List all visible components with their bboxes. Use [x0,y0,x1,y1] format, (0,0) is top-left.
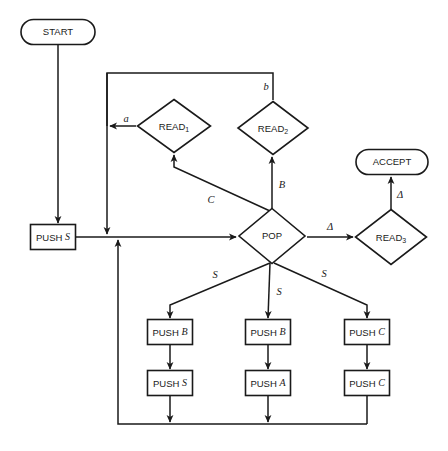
node-label: READ3 [376,231,406,243]
node-push_c_2: PUSH C [345,371,390,396]
edge-label-lbl-C: C [207,194,215,205]
node-label: PUSH S [36,231,70,242]
edge-label-lbl-b: b [263,81,268,92]
edges-layer [58,45,391,424]
node-push_a_2: PUSH A [246,371,291,396]
node-push_s_1: PUSH S [148,371,193,396]
node-label: ACCEPT [373,156,412,167]
node-label: PUSH B [250,326,285,337]
flowchart-svg: STARTACCEPTREAD1READ2READ3POPPUSH SPUSH … [0,0,448,451]
node-label: PUSH B [152,326,187,337]
node-push_b_1: PUSH B [148,320,193,345]
node-label: PUSH A [250,377,286,388]
node-label: READ1 [159,120,189,132]
node-push_s_main: PUSH S [31,225,76,250]
flowchart-canvas: STARTACCEPTREAD1READ2READ3POPPUSH SPUSH … [0,0,448,451]
node-read2: READ2 [238,102,308,155]
node-pop: POP [239,209,305,264]
nodes-layer: STARTACCEPTREAD1READ2READ3POPPUSH SPUSH … [21,20,428,396]
edge-label-lbl-S-left: S [212,269,218,280]
edge-pop-branch-mid [268,263,270,318]
edge-label-lbl-delta2: Δ [396,189,403,200]
node-label: START [43,26,73,37]
node-read1: READ1 [138,100,211,153]
node-push_b_2: PUSH B [246,320,291,345]
node-label: PUSH C [349,326,385,337]
edge-label-lbl-S-mid: S [276,286,282,297]
node-label: POP [262,230,282,241]
node-read3: READ3 [356,210,427,265]
edge-label-lbl-S-right: S [321,268,327,279]
edge-pop-branch-left [170,263,270,318]
edge-label-lbl-delta1: Δ [326,221,333,232]
edge-label-lbl-B: B [279,179,286,190]
edge-pop-to-read1 [174,155,270,211]
node-label: PUSH C [349,377,385,388]
edge-label-lbl-a: a [123,113,128,124]
node-accept: ACCEPT [356,150,428,175]
node-start: START [21,20,95,45]
node-label: PUSH S [153,377,187,388]
node-label: READ2 [258,122,288,134]
node-push_c_1: PUSH C [345,320,390,345]
